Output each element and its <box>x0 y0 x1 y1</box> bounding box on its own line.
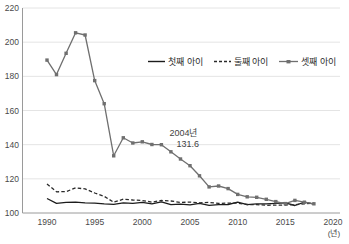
annotation-year: 2004년 <box>169 128 199 139</box>
marker-2018 <box>312 202 315 205</box>
marker-2016 <box>293 199 296 202</box>
series-line-0 <box>47 199 314 206</box>
y-tick-label-180: 180 <box>5 71 19 81</box>
marker-1995 <box>93 79 96 82</box>
legend: 첫째 아이 둘째 아이 셋째 아이 <box>148 55 336 68</box>
marker-2015 <box>284 202 287 205</box>
marker-1993 <box>74 31 77 34</box>
marker-2008 <box>217 184 220 187</box>
sex-ratio-line-chart: 1001201401601802002201990199520002005201… <box>0 0 349 244</box>
marker-2017 <box>303 201 306 204</box>
marker-1990 <box>45 58 48 61</box>
marker-2001 <box>150 143 153 146</box>
marker-2004 <box>179 157 182 160</box>
dashed-line-swatch-icon <box>214 57 231 66</box>
y-tick-label-220: 220 <box>5 3 19 13</box>
marker-2010 <box>236 193 239 196</box>
y-tick-label-100: 100 <box>5 208 19 218</box>
series-line-1 <box>47 184 314 205</box>
marker-1991 <box>55 73 58 76</box>
marker-2006 <box>198 174 201 177</box>
y-tick-label-120: 120 <box>5 174 19 184</box>
marker-1992 <box>64 52 67 55</box>
x-tick-label-1990: 1990 <box>38 217 57 227</box>
y-tick-label-140: 140 <box>5 140 19 150</box>
marker-2000 <box>141 140 144 143</box>
marker-2002 <box>160 143 163 146</box>
x-tick-label-2015: 2015 <box>276 217 295 227</box>
legend-item-third-child: 셋째 아이 <box>279 55 336 68</box>
marker-1997 <box>112 154 115 157</box>
x-axis-unit-label: (년) <box>320 227 348 238</box>
chart-canvas: 1001201401601802002201990199520002005201… <box>0 0 349 244</box>
marker-2014 <box>274 200 277 203</box>
legend-label-third-child: 셋째 아이 <box>301 55 336 68</box>
annotation-value: 131.6 <box>169 139 199 150</box>
y-tick-label-160: 160 <box>5 106 19 116</box>
y-tick-label-200: 200 <box>5 37 19 47</box>
legend-label-first-child: 첫째 아이 <box>168 55 203 68</box>
marker-2005 <box>188 164 191 167</box>
legend-item-second-child: 둘째 아이 <box>214 55 269 68</box>
solid-line-swatch-icon <box>148 57 165 66</box>
data-annotation-2004: 2004년 131.6 <box>169 128 199 150</box>
legend-item-first-child: 첫째 아이 <box>148 55 203 68</box>
marker-2013 <box>265 198 268 201</box>
x-tick-label-2010: 2010 <box>228 217 247 227</box>
marker-2007 <box>207 185 210 188</box>
x-tick-label-2020: 2020 <box>324 217 343 227</box>
marker-2011 <box>246 195 249 198</box>
marker-2012 <box>255 196 258 199</box>
marker-1998 <box>122 136 125 139</box>
x-tick-label-2005: 2005 <box>181 217 200 227</box>
marker-2009 <box>226 187 229 190</box>
marker-line-swatch-icon <box>279 57 298 66</box>
marker-1994 <box>83 33 86 36</box>
legend-label-second-child: 둘째 아이 <box>234 55 269 68</box>
x-tick-label-1995: 1995 <box>85 217 104 227</box>
marker-2003 <box>169 150 172 153</box>
marker-1999 <box>131 141 134 144</box>
x-tick-label-2000: 2000 <box>133 217 152 227</box>
marker-1996 <box>103 102 106 105</box>
